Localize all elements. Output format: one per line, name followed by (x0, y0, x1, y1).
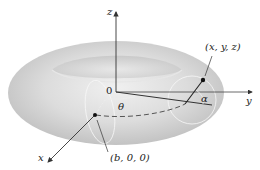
torus-diagram: z y x 0 θ α (b, 0, 0) (x, y, z) (0, 0, 260, 170)
point-xyz-label: (x, y, z) (205, 41, 241, 52)
alpha-label: α (201, 93, 208, 104)
origin-label: 0 (106, 85, 112, 96)
point-xyz (201, 78, 205, 82)
theta-label: θ (118, 101, 124, 112)
z-axis-label: z (106, 6, 113, 17)
y-axis-label: y (245, 95, 252, 106)
point-b00 (93, 113, 97, 117)
point-b00-label: (b, 0, 0) (110, 152, 150, 163)
x-axis-label: x (38, 152, 44, 163)
